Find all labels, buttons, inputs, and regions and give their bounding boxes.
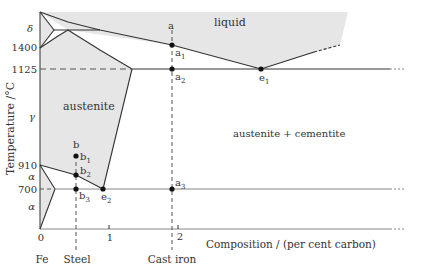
point-a1 — [169, 42, 174, 47]
label-e2: e2 — [101, 191, 111, 205]
label-b: b — [73, 139, 79, 150]
gamma-label: γ — [29, 111, 35, 122]
delta-label: δ — [27, 23, 33, 34]
y-tick-1400: 1400 — [12, 42, 37, 53]
point-e1 — [258, 66, 263, 71]
x-axis-label: Composition / (per cent carbon) — [206, 238, 376, 250]
y-tick-910: 910 — [18, 160, 37, 171]
austenite-cementite-label: austenite + cementite — [233, 128, 345, 139]
point-a3 — [169, 186, 174, 191]
x-tick-0: 0 — [38, 232, 44, 243]
label-a1: a1 — [175, 47, 185, 61]
x-tick-2-label: 2 — [177, 231, 183, 242]
point-b2 — [73, 172, 78, 177]
alpha-upper-label: α — [28, 171, 35, 182]
y-tick-1125: 1125 — [12, 64, 37, 75]
point-a2 — [169, 66, 174, 71]
point-b3 — [73, 186, 78, 191]
label-e1: e1 — [259, 72, 269, 86]
liquid-label: liquid — [214, 16, 246, 29]
y-tick-700: 700 — [18, 184, 37, 195]
fe-label: Fe — [36, 253, 49, 265]
label-a: a — [168, 20, 174, 31]
label-a2: a2 — [175, 71, 185, 85]
austenite-label: austenite — [63, 100, 115, 113]
point-b1 — [73, 153, 78, 158]
alpha-lower-label: α — [28, 201, 35, 212]
y-axis-label: Temperature /°C — [4, 82, 17, 175]
alpha-region — [40, 165, 55, 229]
steel-label: Steel — [63, 253, 91, 265]
phase-diagram: 1400 1125 910 700 δ γ α α Temperature /°… — [0, 0, 429, 269]
label-b3: b3 — [79, 190, 90, 204]
cast-iron-label: Cast iron — [148, 253, 197, 265]
x-tick-1-label: 1 — [107, 232, 113, 243]
